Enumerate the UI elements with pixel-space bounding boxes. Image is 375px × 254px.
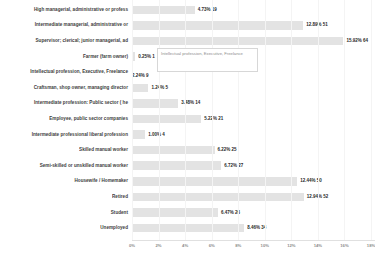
bar-wrapper: 5.22% 21 [132,111,375,127]
x-axis-tick: 16% [340,243,348,248]
bar-plot-area: 1.00% 4 [132,127,375,143]
gridline [291,0,292,240]
bar-value-label: 1.24% 5 [151,85,168,91]
x-axis-tick: 18% [367,243,375,248]
category-label: Farmer (farm owner) [0,53,132,59]
bar-wrapper: 8.46% 34 [132,220,375,236]
bar[interactable] [132,208,218,217]
bar-wrapper: 1.24% 5 [132,80,375,96]
bar-value-label: 2.24% 9 [132,73,149,79]
x-axis-tick: 14% [314,243,322,248]
chart-rows: High managerial, administrative or profe… [0,2,375,236]
bar-plot-area: 4.73% 19 [132,2,375,18]
bar-value-label: 1.00% 4 [148,131,165,137]
bar-value-label: 6.47% 26 [221,209,240,215]
bar[interactable] [132,115,201,124]
x-axis-tick: 4% [182,243,188,248]
category-label: Employee, public sector companies [0,116,132,122]
chart-row[interactable]: Employee, public sector companies5.22% 2… [0,111,375,127]
category-label: Retired [0,194,132,200]
category-label: Semi-skilled or unskilled manual worker [0,163,132,169]
bar-value-label: 12.44% 50 [300,178,322,184]
gridline [318,0,319,240]
horizontal-bar-chart: High managerial, administrative or profe… [0,0,375,254]
bar-wrapper: 6.22% 25 [132,142,375,158]
bar[interactable] [132,84,148,93]
bar-wrapper: 6.47% 26 [132,205,375,221]
bar-wrapper: 12.94% 52 [132,189,375,205]
bar-wrapper: 12.44% 50 [132,174,375,190]
x-axis: 0%2%4%6%8%10%12%14%16%18% [0,240,375,254]
category-label: Intellectual profession, Executive, Free… [0,69,132,75]
bar-plot-area: 12.94% 52 [132,189,375,205]
chart-row[interactable]: Intermediate managerial, administrative … [0,18,375,34]
bar-value-label: 0.25% 1 [138,53,155,59]
gridline [212,0,213,240]
bar-plot-area: 1.24% 5 [132,80,375,96]
bar-plot-area: 3.48% 14 [132,96,375,112]
chart-row[interactable]: Unemployed8.46% 34 [0,220,375,236]
bar-plot-area: 5.22% 21 [132,111,375,127]
category-label: Skilled manual worker [0,147,132,153]
axis-line [132,240,375,241]
bar-value-label: 6.72% 27 [224,163,243,169]
bar[interactable] [132,177,297,186]
bar-value-label: 5.22% 21 [204,116,223,122]
bar-plot-area: 6.72% 27 [132,158,375,174]
bar[interactable] [132,146,215,155]
bar-wrapper: 12.89% 51 [132,18,375,34]
category-label: High managerial, administrative or profe… [0,7,132,13]
chart-row[interactable]: Intermediate professional liberal profes… [0,127,375,143]
category-label: Housewife / Homemaker [0,178,132,184]
bar-plot-area: 12.89% 51 [132,18,375,34]
gridline [371,0,372,240]
bar-wrapper: 15.92% 64 [132,33,375,49]
chart-row[interactable]: Student6.47% 26 [0,205,375,221]
chart-row[interactable]: Intermediate profession: Public sector (… [0,96,375,112]
bar-plot-area: 6.22% 25 [132,142,375,158]
category-label: Intermediate professional liberal profes… [0,131,132,137]
bar-value-label: 6.22% 25 [218,147,237,153]
bar[interactable] [132,130,145,139]
category-label: Craftsman, shop owner, managing director [0,85,132,91]
bar[interactable] [132,99,178,108]
bar-value-label: 15.92% 64 [346,38,368,44]
bar-wrapper: 4.73% 19 [132,2,375,18]
bar-plot-area: 12.44% 50 [132,174,375,190]
bar-plot-area: 15.92% 64 [132,33,375,49]
category-label: Intermediate managerial, administrative … [0,22,132,28]
x-axis-tick: 10% [261,243,269,248]
bar-value-label: 3.48% 14 [181,100,200,106]
chart-row[interactable]: Semi-skilled or unskilled manual worker6… [0,158,375,174]
chart-row[interactable]: Skilled manual worker6.22% 25 [0,142,375,158]
chart-row[interactable]: Supervisor; clerical; junior managerial,… [0,33,375,49]
x-axis-tick: 2% [156,243,162,248]
x-axis-tick: 12% [287,243,295,248]
bar[interactable] [132,224,244,233]
gridline [344,0,345,240]
x-axis-tick: 8% [235,243,241,248]
chart-row[interactable]: Housewife / Homemaker12.44% 50 [0,174,375,190]
category-label: Supervisor; clerical; junior managerial,… [0,38,132,44]
bar-value-label: 8.46% 34 [247,225,266,231]
category-label: Unemployed [0,225,132,231]
category-label: Student [0,209,132,215]
x-axis-tick: 6% [209,243,215,248]
bar-plot-area: 8.46% 34 [132,220,375,236]
bar-wrapper: 6.72% 27 [132,158,375,174]
gridline [238,0,239,240]
bar-value-label: 4.73% 19 [198,7,217,13]
chart-tooltip: Intellectual profession, Executive, Free… [157,48,258,72]
gridline [185,0,186,240]
chart-row[interactable]: High managerial, administrative or profe… [0,2,375,18]
category-label: Intermediate profession: Public sector (… [0,100,132,106]
x-axis-tick: 0% [129,243,135,248]
bar-wrapper: 3.48% 14 [132,96,375,112]
bar[interactable] [132,161,221,170]
gridline [265,0,266,240]
gridline [159,0,160,240]
chart-row[interactable]: Retired12.94% 52 [0,189,375,205]
chart-row[interactable]: Craftsman, shop owner, managing director… [0,80,375,96]
bar-wrapper: 1.00% 4 [132,127,375,143]
gridline [132,0,133,240]
